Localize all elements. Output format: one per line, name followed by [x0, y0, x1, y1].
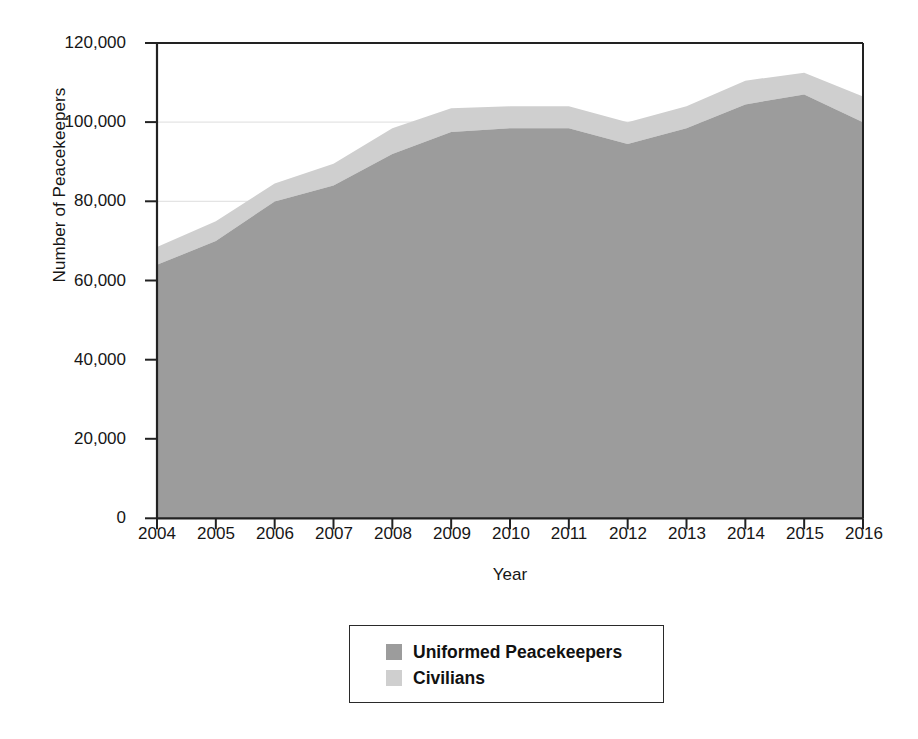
- chart-legend: Uniformed Peacekeepers Civilians: [349, 625, 664, 703]
- legend-label-uniformed: Uniformed Peacekeepers: [413, 642, 622, 663]
- legend-item-uniformed: Uniformed Peacekeepers: [386, 640, 622, 664]
- plot-area: [0, 0, 918, 600]
- legend-swatch-uniformed: [386, 644, 402, 660]
- legend-label-civilians: Civilians: [413, 668, 485, 689]
- legend-item-civilians: Civilians: [386, 666, 485, 690]
- area-chart: Number of Peacekeepers 120,000 100,000 8…: [0, 0, 918, 739]
- legend-swatch-civilians: [386, 670, 402, 686]
- x-axis-ticks: [157, 518, 863, 529]
- y-axis-ticks: [145, 43, 157, 518]
